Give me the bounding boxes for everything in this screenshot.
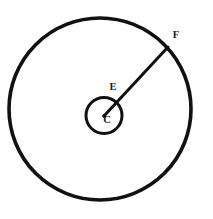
label-F: F (173, 29, 179, 40)
figure-canvas: F E C (0, 0, 213, 219)
label-C: C (103, 114, 111, 125)
diagram-background (0, 0, 213, 219)
label-E: E (109, 81, 116, 92)
geometry-diagram: F E C (0, 0, 213, 219)
